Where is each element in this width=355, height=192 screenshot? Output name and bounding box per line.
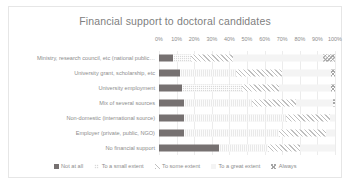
category-axis-labels: Ministry, research council, etc (nationa… — [21, 51, 157, 155]
bar-segment[interactable] — [300, 144, 335, 151]
bar-segment[interactable] — [159, 129, 184, 136]
bar-segment[interactable] — [191, 55, 233, 62]
bar-segment[interactable] — [286, 114, 330, 121]
bar-row[interactable] — [159, 85, 335, 92]
bar-segment[interactable] — [233, 55, 323, 62]
x-axis-tick: 100% — [328, 36, 342, 42]
x-axis-tick: 20% — [189, 36, 200, 42]
bar-segment[interactable] — [323, 55, 335, 62]
legend-swatch — [155, 164, 160, 169]
bar-segment[interactable] — [236, 70, 282, 77]
x-axis-tick: 30% — [206, 36, 217, 42]
chart-legend: Not at allTo a small extentTo some exten… — [9, 163, 341, 169]
bar-segment[interactable] — [331, 70, 335, 77]
category-label: Non-domestic (international source) — [66, 115, 155, 121]
chart-frame: Financial support to doctoral candidates… — [8, 6, 342, 178]
legend-item[interactable]: To some extent — [155, 163, 200, 169]
category-label: Mix of several sources — [99, 100, 155, 106]
legend-item[interactable]: To a great extent — [211, 163, 260, 169]
x-axis-tick: 80% — [294, 36, 305, 42]
legend-item[interactable]: To a small extent — [94, 163, 143, 169]
chart-title: Financial support to doctoral candidates — [9, 15, 341, 27]
bar-segment[interactable] — [326, 129, 335, 136]
legend-swatch — [271, 164, 276, 169]
bar-segment[interactable] — [173, 55, 191, 62]
legend-label: To a great extent — [219, 163, 261, 169]
category-label: No financial support — [106, 145, 155, 151]
bar-row[interactable] — [159, 55, 335, 62]
category-label: Ministry, research council, etc (nationa… — [37, 55, 155, 61]
bar-segment[interactable] — [182, 85, 242, 92]
bar-segment[interactable] — [184, 114, 286, 121]
gridline — [335, 51, 336, 155]
bar-segment[interactable] — [296, 100, 333, 107]
bar-segment[interactable] — [159, 70, 180, 77]
bar-row[interactable] — [159, 129, 335, 136]
category-label: Employer (private, public, NGO) — [76, 130, 155, 136]
bar-row[interactable] — [159, 100, 335, 107]
bar-segment[interactable] — [159, 85, 182, 92]
legend-swatch — [211, 164, 216, 169]
bar-segment[interactable] — [333, 100, 335, 107]
legend-label: Always — [279, 163, 297, 169]
bar-segment[interactable] — [159, 114, 184, 121]
x-axis-tick: 50% — [242, 36, 253, 42]
x-axis-tick: 70% — [277, 36, 288, 42]
bar-row[interactable] — [159, 144, 335, 151]
x-axis-tick-labels: 0%10%20%30%40%50%60%70%80%90%100% — [159, 36, 335, 47]
legend-item[interactable]: Not at all — [54, 163, 84, 169]
bar-segment[interactable] — [282, 70, 331, 77]
category-label: University employment — [98, 85, 155, 91]
legend-swatch — [54, 164, 59, 169]
bar-segment[interactable] — [184, 129, 279, 136]
x-axis-tick: 0% — [155, 36, 163, 42]
legend-label: To some extent — [162, 163, 200, 169]
legend-label: To a small extent — [102, 163, 144, 169]
bar-segment[interactable] — [268, 144, 300, 151]
legend-label: Not at all — [61, 163, 83, 169]
bar-segment[interactable] — [159, 55, 173, 62]
bar-segment[interactable] — [279, 129, 327, 136]
x-axis-tick: 10% — [171, 36, 182, 42]
bar-segment[interactable] — [219, 144, 268, 151]
category-label: University grant, scholarship, etc — [74, 70, 155, 76]
bar-segment[interactable] — [159, 100, 184, 107]
plot-area — [159, 51, 335, 155]
x-axis-tick: 60% — [259, 36, 270, 42]
bar-segment[interactable] — [331, 85, 335, 92]
bar-segment[interactable] — [180, 70, 236, 77]
x-axis-tick: 40% — [224, 36, 235, 42]
bar-segment[interactable] — [184, 100, 253, 107]
bar-segment[interactable] — [330, 114, 335, 121]
bar-row[interactable] — [159, 70, 335, 77]
legend-swatch — [94, 164, 99, 169]
bar-segment[interactable] — [242, 85, 279, 92]
bar-row[interactable] — [159, 114, 335, 121]
bar-segment[interactable] — [252, 100, 296, 107]
bar-segment[interactable] — [159, 144, 219, 151]
x-axis-tick: 90% — [312, 36, 323, 42]
bar-segment[interactable] — [279, 85, 332, 92]
legend-item[interactable]: Always — [271, 163, 296, 169]
